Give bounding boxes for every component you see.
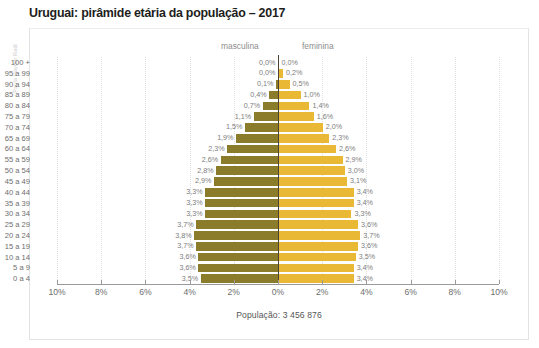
bar-value-label-female: 2,3% — [332, 133, 348, 143]
population-pyramid-figure: Paula Hayder Radi Uruguai: pirâmide etár… — [0, 0, 539, 348]
age-group-label: 55 a 59 — [0, 154, 30, 165]
bar-value-label-female: 3,4% — [357, 187, 373, 197]
bar-value-label-male: 3,3% — [186, 187, 202, 197]
x-axis-tick-label: 4% — [170, 287, 210, 297]
x-axis-tick — [455, 280, 456, 284]
bar-female — [279, 91, 301, 100]
bar-value-label-female: 1,0% — [304, 90, 320, 100]
bar-value-label-male: 3,3% — [186, 209, 202, 219]
age-group-label: 85 a 89 — [0, 89, 30, 100]
x-axis-tick-label: 4% — [346, 287, 386, 297]
bar-female — [279, 134, 330, 143]
chart-title: Uruguai: pirâmide etária da população – … — [29, 6, 285, 20]
age-group-label: 30 a 34 — [0, 208, 30, 219]
bar-male — [194, 231, 278, 240]
bar-value-label-male: 3,6% — [180, 263, 196, 273]
bar-value-label-male: 3,8% — [175, 231, 191, 241]
bar-female — [279, 199, 354, 208]
bar-value-label-male: 1,1% — [235, 112, 251, 122]
bar-male — [196, 242, 278, 251]
bar-male — [205, 188, 278, 197]
bar-value-label-female: 2,0% — [326, 122, 342, 132]
population-caption: População: 3 456 876 — [30, 310, 528, 320]
age-group-label: 70 a 74 — [0, 122, 30, 133]
x-axis-tick-label: 2% — [302, 287, 342, 297]
age-group-label: 65 a 69 — [0, 133, 30, 144]
bar-male — [198, 253, 278, 262]
bar-female — [279, 242, 359, 251]
bar-value-label-male: 3,7% — [177, 220, 193, 230]
bar-male — [198, 264, 278, 273]
bar-value-label-female: 1,4% — [312, 101, 328, 111]
age-group-label: 50 a 54 — [0, 165, 30, 176]
bar-female — [279, 102, 310, 111]
age-group-label: 15 a 19 — [0, 241, 30, 252]
x-axis-tick — [411, 280, 412, 284]
x-axis-line — [57, 284, 499, 285]
bar-value-label-male: 1,5% — [226, 122, 242, 132]
bar-female — [279, 231, 361, 240]
age-group-label: 5 a 9 — [0, 262, 30, 273]
bar-male — [205, 199, 278, 208]
age-group-label: 20 a 24 — [0, 230, 30, 241]
bar-value-label-female: 0,5% — [293, 79, 309, 89]
bar-value-label-male: 0,0% — [259, 58, 275, 68]
bar-value-label-female: 0,0% — [282, 58, 298, 68]
age-group-label: 0 a 4 — [0, 273, 30, 284]
age-group-label: 100 + — [0, 57, 30, 68]
bar-male — [221, 156, 278, 165]
x-axis-tick — [499, 280, 500, 284]
bar-value-label-female: 0,2% — [286, 68, 302, 78]
bar-value-label-male: 1,9% — [217, 133, 233, 143]
series-header-male: masculina — [221, 41, 259, 51]
x-axis-tick-label: 6% — [391, 287, 431, 297]
bar-value-label-female: 2,9% — [346, 155, 362, 165]
bar-female — [279, 156, 343, 165]
age-group-label: 95 a 99 — [0, 68, 30, 79]
x-axis-tick-label: 0% — [258, 287, 298, 297]
x-axis-tick-label: 8% — [81, 287, 121, 297]
bar-value-label-male: 2,6% — [202, 155, 218, 165]
x-axis-tick-label: 10% — [479, 287, 519, 297]
bar-male — [214, 177, 278, 186]
x-axis-tick — [145, 280, 146, 284]
x-axis-tick-label: 2% — [214, 287, 254, 297]
bar-value-label-male: 0,7% — [244, 101, 260, 111]
bar-value-label-male: 2,3% — [208, 144, 224, 154]
bar-female — [279, 210, 352, 219]
age-group-label: 40 a 44 — [0, 187, 30, 198]
bar-value-label-male: 0,0% — [259, 68, 275, 78]
bar-male — [254, 112, 278, 121]
bar-value-label-male: 0,1% — [257, 79, 273, 89]
x-axis-tick — [366, 280, 367, 284]
bar-value-label-female: 3,7% — [363, 231, 379, 241]
bar-female — [279, 123, 323, 132]
x-axis-tick-label: 8% — [435, 287, 475, 297]
bar-value-label-male: 3,7% — [177, 241, 193, 251]
x-axis-tick — [322, 280, 323, 284]
bar-female — [279, 220, 359, 229]
x-axis-tick — [278, 280, 279, 284]
bar-female — [279, 264, 354, 273]
bar-male — [201, 274, 278, 283]
bar-female — [279, 145, 336, 154]
x-axis-tick — [57, 280, 58, 284]
bar-value-label-female: 1,6% — [317, 112, 333, 122]
age-group-label: 35 a 39 — [0, 198, 30, 209]
bar-value-label-female: 3,5% — [359, 252, 375, 262]
bar-male — [205, 210, 278, 219]
bar-female — [279, 253, 356, 262]
bar-value-label-female: 3,0% — [348, 166, 364, 176]
bar-female — [279, 112, 314, 121]
x-axis-tick-label: 6% — [125, 287, 165, 297]
bar-value-label-female: 3,4% — [357, 274, 373, 284]
age-group-label: 10 a 14 — [0, 252, 30, 263]
bar-male — [236, 134, 278, 143]
age-group-label: 80 a 84 — [0, 100, 30, 111]
bar-value-label-female: 2,6% — [339, 144, 355, 154]
bar-value-label-male: 0,4% — [250, 90, 266, 100]
bar-female — [279, 166, 345, 175]
bar-male — [263, 102, 278, 111]
x-axis-tick — [101, 280, 102, 284]
x-axis-tick — [234, 280, 235, 284]
